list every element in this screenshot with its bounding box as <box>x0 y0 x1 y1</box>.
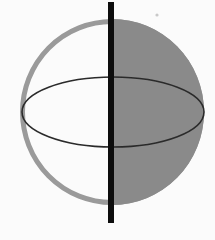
vertical-axis-line <box>108 2 114 223</box>
speck-mark <box>155 13 158 16</box>
figure-container: Sphere with vertical axis and equatorial… <box>0 0 215 240</box>
sphere-diagram <box>0 0 215 240</box>
